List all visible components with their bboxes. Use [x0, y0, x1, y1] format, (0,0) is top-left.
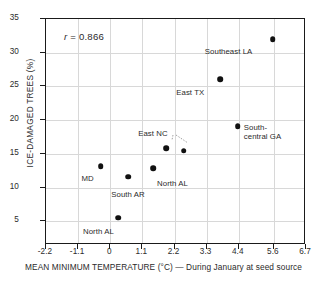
y-gridline: [46, 86, 304, 87]
data-point: [150, 166, 156, 172]
data-point: [270, 36, 276, 42]
correlation-annotation: r = 0.866: [64, 31, 104, 42]
data-point: [98, 164, 104, 170]
y-tick-mark: [40, 18, 45, 19]
y-tick-mark: [40, 220, 45, 221]
scatter-chart-figure: ICE-DAMAGED TREES (%) MEAN MINIMUM TEMPE…: [0, 0, 327, 289]
y-tick-label: 35: [0, 14, 19, 22]
y-axis-title: ICE-DAMAGED TREES (%): [25, 13, 35, 213]
data-point: [235, 123, 241, 129]
y-gridline: [46, 53, 304, 54]
y-tick-label: 5: [0, 216, 19, 224]
x-tick-label: 6.7: [285, 248, 325, 256]
y-tick-label: 20: [0, 115, 19, 123]
data-point-label: South AR: [111, 190, 144, 199]
y-gridline: [46, 221, 304, 222]
data-point: [217, 77, 223, 83]
data-point-label: Southeast LA: [205, 47, 252, 56]
y-tick-mark: [40, 119, 45, 120]
data-point-label: North AL: [157, 179, 188, 188]
y-tick-label: 25: [0, 81, 19, 89]
y-gridline: [46, 120, 304, 121]
correlation-equals: =: [67, 31, 79, 42]
y-tick-mark: [40, 52, 45, 53]
data-point: [181, 148, 187, 154]
y-tick-mark: [40, 187, 45, 188]
y-tick-mark: [40, 85, 45, 86]
data-point-label: North AL: [83, 227, 114, 236]
x-axis-title: MEAN MINIMUM TEMPERATURE (°C) — During J…: [0, 262, 327, 272]
x-tick-label: 4.4: [218, 248, 258, 256]
data-point: [125, 174, 131, 180]
y-tick-label: 30: [0, 48, 19, 56]
data-point-label: East TX: [176, 88, 204, 97]
data-point: [163, 145, 169, 151]
correlation-value: 0.866: [79, 31, 104, 42]
y-tick-mark: [40, 153, 45, 154]
data-point-label: South-central GA: [244, 123, 281, 141]
data-point-label: MD: [82, 174, 94, 183]
data-point-label: East NC: [138, 129, 167, 138]
y-tick-label: 15: [0, 149, 19, 157]
data-point: [115, 215, 121, 221]
y-gridline: [46, 154, 304, 155]
y-tick-label: 10: [0, 183, 19, 191]
